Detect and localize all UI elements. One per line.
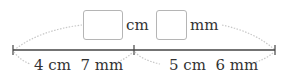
answer-box-mm[interactable]	[156, 10, 187, 40]
total-length-arc	[14, 25, 82, 50]
segment2-label: 5 cm 6 mm	[169, 58, 258, 73]
segment1-arc-left	[14, 52, 30, 64]
unit-mm-label: mm	[190, 18, 218, 33]
segment1-label: 4 cm 7 mm	[34, 58, 123, 73]
unit-cm-label: cm	[126, 18, 149, 33]
segment2-arc-left	[135, 52, 160, 64]
answer-box-cm[interactable]	[83, 10, 123, 40]
total-length-arc-right	[222, 25, 275, 50]
